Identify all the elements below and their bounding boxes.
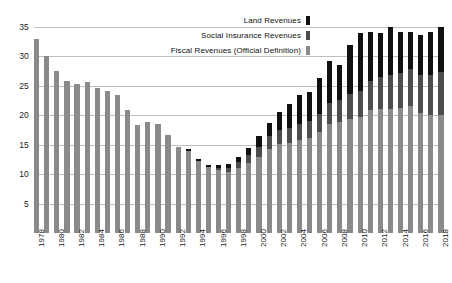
x-axis-label-1990: 1990	[155, 236, 160, 281]
bar-segment-social-2018	[438, 72, 443, 115]
bar-segment-land-2001	[267, 123, 272, 137]
x-axis-label-2006: 2006	[317, 236, 322, 281]
bar-segment-fiscal-1983	[85, 82, 90, 233]
bar-segment-fiscal-1989	[145, 122, 150, 233]
bar-segment-fiscal-2018	[438, 115, 443, 233]
legend-item-1: Social Insurance Revenues	[150, 28, 310, 43]
bar-segment-fiscal-2015	[408, 106, 413, 233]
bar-segment-fiscal-2001	[267, 149, 272, 233]
bar-segment-land-2008	[337, 65, 342, 100]
x-axis-label-blank	[125, 236, 130, 281]
bar-segment-fiscal-1991	[165, 135, 170, 233]
y-axis-tick-35: 35	[19, 22, 29, 32]
x-axis-label-blank	[368, 236, 373, 281]
bar-2015	[408, 27, 413, 233]
legend-label: Land Revenues	[244, 16, 301, 25]
x-axis-label-2018: 2018	[438, 236, 443, 281]
bar-segment-fiscal-1993	[186, 151, 191, 233]
bar-segment-social-2003	[287, 128, 292, 143]
bar-1979	[44, 27, 49, 233]
x-axis-label-2012: 2012	[378, 236, 383, 281]
bar-segment-fiscal-1999	[246, 163, 251, 233]
bar-segment-social-2000	[256, 147, 261, 157]
x-axis-label-2008: 2008	[337, 236, 342, 281]
bar-segment-fiscal-2006	[317, 132, 322, 233]
bar-2007	[327, 27, 332, 233]
x-axis-label-1986: 1986	[115, 236, 120, 281]
bar-segment-social-2015	[408, 69, 413, 105]
x-axis-label-2016: 2016	[418, 236, 423, 281]
y-axis-tick-25: 25	[19, 81, 29, 91]
bar-segment-fiscal-2013	[388, 109, 393, 233]
x-axis-label-blank	[327, 236, 332, 281]
x-axis-label-blank	[246, 236, 251, 281]
bar-2006	[317, 27, 322, 233]
x-axis-label-2014: 2014	[398, 236, 403, 281]
x-axis-label-blank	[85, 236, 90, 281]
bar-segment-social-2001	[267, 136, 272, 148]
bar-segment-social-2008	[337, 100, 342, 122]
x-axis-label-1982: 1982	[74, 236, 79, 281]
x-axis-label-blank	[226, 236, 231, 281]
chart-legend: Land RevenuesSocial Insurance RevenuesFi…	[150, 13, 310, 58]
x-axis-label-blank	[206, 236, 211, 281]
x-axis-label-2000: 2000	[256, 236, 261, 281]
bar-1981	[64, 27, 69, 233]
bar-segment-fiscal-2010	[358, 117, 363, 233]
x-axis-label-blank	[44, 236, 49, 281]
bar-segment-fiscal-1985	[105, 91, 110, 233]
bar-segment-social-2006	[317, 114, 322, 133]
bar-segment-fiscal-1982	[74, 84, 79, 233]
x-axis-label-1978: 1978	[34, 236, 39, 281]
bar-2017	[428, 27, 433, 233]
bar-segment-land-2017	[428, 32, 433, 76]
bar-2016	[418, 27, 423, 233]
stacked-bar-chart: 5101520253035 19781980198219841986198819…	[0, 0, 452, 283]
bar-1978	[34, 27, 39, 233]
x-axis-label-blank	[145, 236, 150, 281]
bar-segment-social-2011	[368, 81, 373, 110]
bar-segment-fiscal-2016	[418, 113, 423, 233]
bar-segment-land-2004	[297, 95, 302, 124]
x-axis-labels: 1978198019821984198619881990199219941996…	[34, 236, 444, 281]
bar-segment-fiscal-2007	[327, 124, 332, 233]
bar-segment-land-2015	[408, 32, 413, 70]
x-axis-label-blank	[428, 236, 433, 281]
x-axis-label-text: 2018	[441, 229, 450, 247]
x-axis-label-1984: 1984	[95, 236, 100, 281]
bar-segment-land-2005	[307, 92, 312, 121]
bar-segment-social-2013	[388, 75, 393, 108]
x-axis-label-2002: 2002	[277, 236, 282, 281]
bar-segment-fiscal-2003	[287, 143, 292, 233]
bar-segment-land-2016	[418, 35, 423, 76]
x-axis-label-blank	[105, 236, 110, 281]
bar-segment-land-2002	[277, 112, 282, 130]
bar-segment-fiscal-1980	[54, 71, 59, 233]
bar-segment-fiscal-1987	[125, 110, 130, 233]
bar-segment-fiscal-1994	[196, 161, 201, 233]
x-axis-label-blank	[287, 236, 292, 281]
legend-label: Fiscal Revenues (Official Definition)	[171, 46, 301, 55]
x-axis-label-2010: 2010	[358, 236, 363, 281]
bar-2013	[388, 27, 393, 233]
bar-segment-social-2005	[307, 121, 312, 138]
bar-segment-social-2017	[428, 75, 433, 114]
x-axis-label-1998: 1998	[236, 236, 241, 281]
x-axis-label-blank	[307, 236, 312, 281]
x-axis-label-1996: 1996	[216, 236, 221, 281]
bar-segment-social-2016	[418, 75, 423, 113]
bar-2010	[358, 27, 363, 233]
bar-segment-fiscal-2011	[368, 110, 373, 233]
bar-1986	[115, 27, 120, 233]
bar-segment-social-2007	[327, 103, 332, 124]
bar-segment-land-2006	[317, 78, 322, 113]
bar-2018	[438, 27, 443, 233]
bar-segment-fiscal-1979	[44, 56, 49, 233]
legend-label: Social Insurance Revenues	[201, 31, 301, 40]
bar-segment-land-2003	[287, 104, 292, 129]
x-axis-label-2004: 2004	[297, 236, 302, 281]
x-axis-label-1992: 1992	[176, 236, 181, 281]
bar-segment-social-1999	[246, 155, 251, 163]
bar-2012	[378, 27, 383, 233]
legend-swatch	[306, 46, 310, 55]
